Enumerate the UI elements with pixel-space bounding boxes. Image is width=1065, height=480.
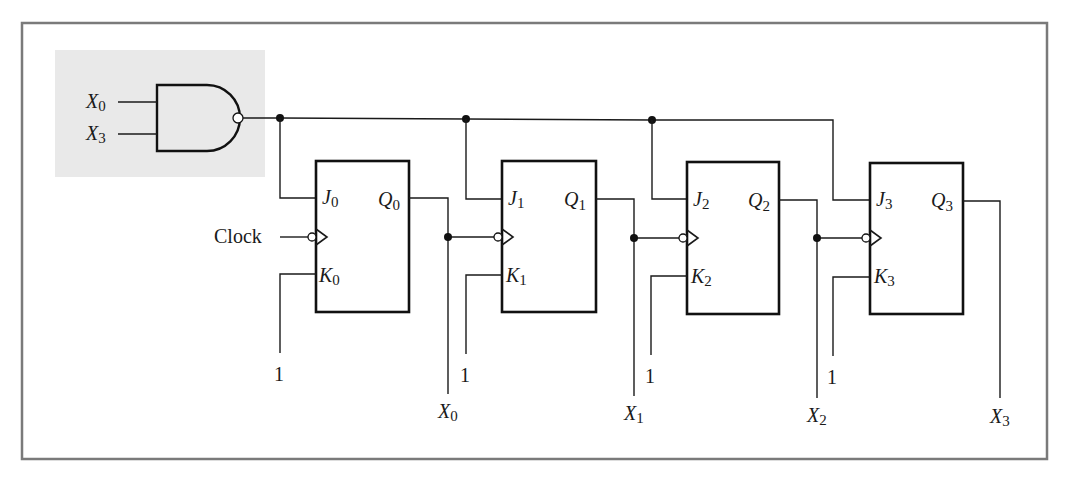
- ff0-box: [316, 161, 409, 312]
- j0-wire: [280, 118, 316, 198]
- ff2-k-wire: [651, 276, 687, 355]
- ff2-output-label: X2: [806, 404, 827, 428]
- circuit-diagram: X0 X3 Clock J0 K0 Q0 1 X0 J1 K1 Q1: [0, 0, 1065, 480]
- junction-dot-icon: [630, 234, 638, 242]
- ff1-clock-bubble-icon: [494, 233, 502, 241]
- ff0-q-wire: [409, 198, 448, 394]
- ff1-box: [502, 161, 596, 312]
- flip-flop-0: J0 K0 Q0 1 X0: [274, 161, 458, 424]
- ff1-output-label: X1: [623, 402, 644, 426]
- ff2-clock-bubble-icon: [679, 234, 687, 242]
- gate-shaded-region: [55, 50, 265, 177]
- ff2-box: [687, 162, 779, 314]
- clock-label: Clock: [214, 225, 262, 247]
- ff2-k-input-label: 1: [645, 365, 655, 387]
- ff0-k-input-label: 1: [274, 363, 284, 385]
- ff1-k-wire: [466, 275, 502, 354]
- ff3-output-label: X3: [989, 405, 1010, 429]
- junction-dot-icon: [813, 234, 821, 242]
- j2-wire: [652, 120, 687, 199]
- flip-flop-3: J3 K3 Q3 1 X3: [813, 163, 1010, 429]
- j1-wire: [466, 119, 502, 199]
- ff1-q-wire: [596, 199, 634, 396]
- ff0-output-label: X0: [437, 400, 458, 424]
- ff3-k-wire: [833, 277, 870, 356]
- ff3-clock-bubble-icon: [862, 234, 870, 242]
- ff3-k-input-label: 1: [827, 366, 837, 388]
- flip-flop-2: J2 K2 Q2 1 X2: [630, 162, 827, 428]
- ff3-q-wire: [963, 201, 1000, 398]
- junction-dot-icon: [444, 233, 452, 241]
- ff3-box: [870, 163, 963, 314]
- ff0-k-wire: [280, 274, 316, 353]
- ff1-k-input-label: 1: [460, 364, 470, 386]
- flip-flop-1: J1 K1 Q1 1 X1: [444, 161, 644, 426]
- ff0-clock-bubble-icon: [308, 233, 316, 241]
- nand-output-bubble-icon: [233, 113, 243, 123]
- ff2-q-wire: [779, 200, 817, 398]
